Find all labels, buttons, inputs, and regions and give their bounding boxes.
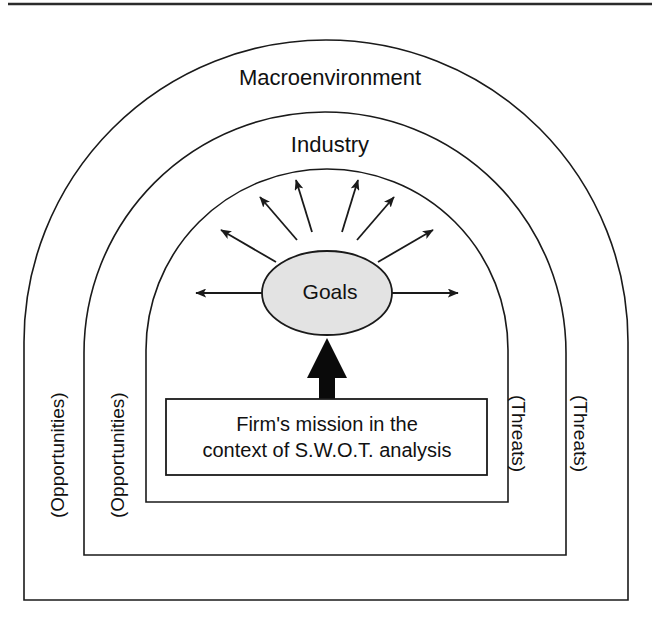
diagram-canvas: Macroenvironment Industry Goals Firm's m… (0, 0, 660, 637)
radiating-arrow-ene (378, 230, 433, 262)
radiating-arrow-nne (342, 180, 358, 232)
threats-label-outer: (Threats) (569, 395, 591, 472)
swot-nested-arch-diagram (0, 0, 660, 637)
radiating-arrow-wnw (221, 230, 276, 262)
mission-box-text: Firm's mission in the context of S.W.O.T… (167, 412, 487, 463)
threats-label-inner: (Threats) (507, 395, 529, 472)
goals-label: Goals (0, 281, 660, 304)
radiating-arrow-nw (260, 197, 297, 240)
mission-line-2: context of S.W.O.T. analysis (167, 438, 487, 464)
opportunities-label-outer: (Opportunities) (47, 392, 69, 518)
radiating-arrow-ne (357, 197, 394, 240)
radiating-arrow-nnw (296, 180, 312, 232)
opportunities-label-inner: (Opportunities) (107, 392, 129, 518)
industry-label: Industry (0, 133, 660, 157)
mission-line-1: Firm's mission in the (167, 412, 487, 438)
macroenvironment-label: Macroenvironment (0, 66, 660, 90)
mission-to-goals-arrow (307, 338, 347, 402)
